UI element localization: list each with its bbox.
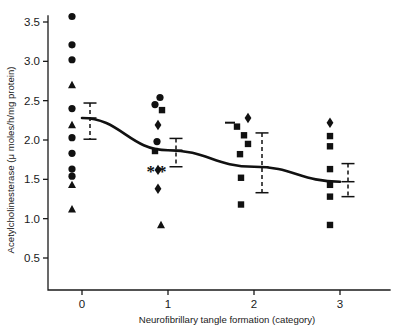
data-point-square <box>327 193 333 199</box>
scatter-plot: 0.51.01.52.02.53.03.5 0123 ** Neurofibri… <box>0 0 400 336</box>
data-point-square <box>241 132 247 138</box>
data-point-circle <box>153 138 160 145</box>
data-point-square <box>327 166 333 172</box>
x-tick-label: 1 <box>165 298 171 310</box>
data-point-square <box>327 222 333 228</box>
data-point-circle <box>68 134 75 141</box>
data-point-circle <box>68 13 75 20</box>
y-tick-label: 0.5 <box>24 252 40 264</box>
significance-asterisks: ** <box>147 162 170 181</box>
data-point-square <box>238 175 244 181</box>
x-tick-label: 2 <box>251 298 257 310</box>
y-tick-label: 3.0 <box>24 55 40 67</box>
data-point-square <box>237 151 243 157</box>
data-point-dash <box>225 122 235 124</box>
plot-background <box>0 0 400 336</box>
y-axis-label: Acetylcholinesterase (μ moles/h/mg prote… <box>5 67 16 254</box>
x-tick-label: 0 <box>79 298 85 310</box>
chart-figure: 0.51.01.52.02.53.03.5 0123 ** Neurofibri… <box>0 0 400 336</box>
y-tick-label: 3.5 <box>24 16 40 28</box>
data-point-circle <box>68 166 75 173</box>
data-point-square <box>327 133 333 139</box>
x-tick-label: 3 <box>337 298 343 310</box>
x-axis-label: Neurofibrillary tangle formation (catego… <box>139 314 316 325</box>
data-point-circle <box>68 41 75 48</box>
data-point-square <box>238 201 244 207</box>
data-point-square <box>327 143 333 149</box>
data-point-circle <box>151 101 158 108</box>
data-point-circle <box>68 173 75 180</box>
data-point-square <box>234 123 240 129</box>
significance-markers: ** <box>147 162 170 181</box>
y-tick-label: 2.0 <box>24 134 40 146</box>
data-point-square <box>245 141 251 147</box>
data-point-circle <box>68 150 75 157</box>
data-point-square <box>159 107 165 113</box>
data-point-circle <box>68 105 75 112</box>
data-point-circle <box>156 94 163 101</box>
y-tick-label: 1.0 <box>24 213 40 225</box>
y-tick-label: 2.5 <box>24 95 40 107</box>
y-tick-label: 1.5 <box>24 173 40 185</box>
data-point-circle <box>68 56 75 63</box>
